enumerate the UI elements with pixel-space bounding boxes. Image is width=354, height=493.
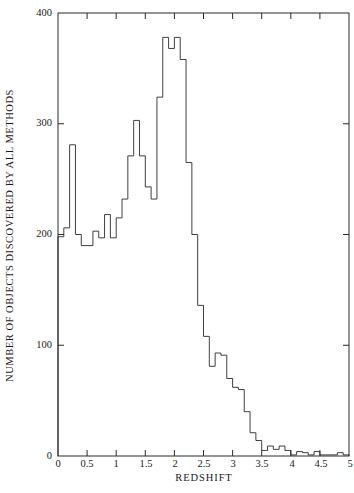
axis-ticks — [58, 13, 349, 456]
plot-area — [0, 0, 354, 493]
redshift-histogram-figure: NUMBER OF OBJECTS DISCOVERED BY ALL METH… — [0, 0, 354, 493]
histogram-step-line — [58, 37, 349, 456]
axes-frame — [58, 13, 349, 456]
